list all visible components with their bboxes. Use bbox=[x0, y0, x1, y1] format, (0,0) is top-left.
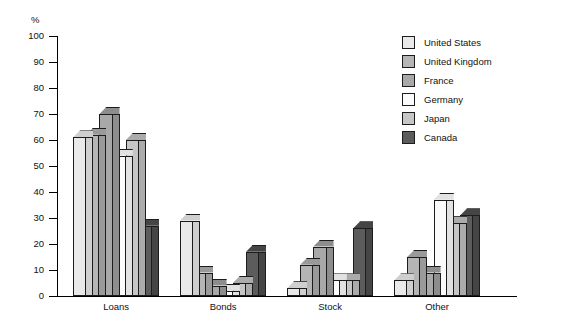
y-axis-tick-label: 50 bbox=[14, 161, 44, 171]
bar-top-face bbox=[246, 245, 266, 252]
y-axis-tick-label: 70 bbox=[14, 109, 44, 119]
bar-top-face bbox=[460, 208, 480, 215]
legend-item[interactable]: United Kingdom bbox=[402, 52, 562, 71]
bar-top-face bbox=[126, 133, 146, 140]
bar-side-face bbox=[366, 228, 373, 296]
legend-swatch bbox=[402, 131, 415, 144]
bar-side-face bbox=[152, 226, 159, 296]
legend-swatch bbox=[402, 36, 415, 49]
bar bbox=[180, 221, 193, 296]
bar-top-face bbox=[394, 273, 414, 280]
y-axis-tick-label: 40 bbox=[14, 187, 44, 197]
bar-side-face bbox=[460, 223, 467, 296]
legend-item-label: Canada bbox=[424, 133, 457, 143]
y-axis-tick bbox=[49, 270, 57, 271]
y-axis-tick bbox=[49, 166, 57, 167]
x-axis-category-label: Other bbox=[425, 301, 449, 312]
bar-side-face bbox=[113, 114, 120, 296]
bar-top-face bbox=[287, 281, 307, 288]
x-axis-category-label: Stock bbox=[318, 301, 342, 312]
bar-top-face bbox=[300, 258, 320, 265]
y-axis-tick bbox=[49, 88, 57, 89]
bar-side-face bbox=[340, 280, 347, 296]
bar-side-face bbox=[407, 280, 414, 296]
y-axis-tick bbox=[49, 244, 57, 245]
legend-swatch bbox=[402, 55, 415, 68]
bar-front-face bbox=[394, 280, 407, 296]
x-axis-category-label: Bonds bbox=[210, 301, 237, 312]
legend-item-label: Germany bbox=[424, 95, 463, 105]
bar-group bbox=[180, 36, 266, 296]
bar-top-face bbox=[99, 107, 119, 114]
legend-item[interactable]: United States bbox=[402, 33, 562, 52]
bar-side-face bbox=[447, 200, 454, 296]
legend-item-label: France bbox=[424, 76, 454, 86]
y-axis-tick-label: 60 bbox=[14, 135, 44, 145]
legend-swatch bbox=[402, 112, 415, 125]
bar-top-face bbox=[353, 221, 373, 228]
x-axis-category-label: Loans bbox=[103, 301, 129, 312]
y-axis-tick bbox=[49, 192, 57, 193]
y-axis-tick bbox=[49, 114, 57, 115]
legend-item[interactable]: Japan bbox=[402, 109, 562, 128]
legend-item[interactable]: France bbox=[402, 71, 562, 90]
bar bbox=[73, 137, 86, 296]
bar bbox=[394, 280, 407, 296]
y-axis-tick bbox=[49, 36, 57, 37]
bar-side-face bbox=[233, 291, 240, 296]
y-axis-tick bbox=[49, 140, 57, 141]
bar-top-face bbox=[233, 276, 253, 283]
bar-side-face bbox=[313, 265, 320, 296]
bar-front-face bbox=[180, 221, 193, 296]
legend-swatch bbox=[402, 93, 415, 106]
y-axis-tick bbox=[49, 296, 57, 297]
bar-side-face bbox=[420, 257, 427, 296]
legend-swatch bbox=[402, 74, 415, 87]
bar-group bbox=[287, 36, 373, 296]
chart-legend: United StatesUnited KingdomFranceGermany… bbox=[402, 33, 562, 147]
y-axis-tick-label: 80 bbox=[14, 83, 44, 93]
y-axis-tick bbox=[49, 62, 57, 63]
bar-top-face bbox=[407, 250, 427, 257]
y-axis-tick-label: 0 bbox=[14, 291, 44, 301]
legend-item[interactable]: Germany bbox=[402, 90, 562, 109]
y-axis-tick-label: 100 bbox=[14, 31, 44, 41]
bar-group bbox=[73, 36, 159, 296]
bar-side-face bbox=[139, 140, 146, 296]
bar-side-face bbox=[206, 273, 213, 296]
bar-side-face bbox=[473, 215, 480, 296]
legend-item[interactable]: Canada bbox=[402, 128, 562, 147]
y-axis-tick-label: 20 bbox=[14, 239, 44, 249]
bar-top-face bbox=[180, 214, 200, 221]
bar-front-face bbox=[73, 137, 86, 296]
y-axis-tick-label: 90 bbox=[14, 57, 44, 67]
x-axis-line bbox=[57, 296, 517, 297]
bar-side-face bbox=[193, 221, 200, 296]
bar-side-face bbox=[259, 252, 266, 296]
legend-item-label: United States bbox=[424, 38, 481, 48]
bar-top-face bbox=[73, 130, 93, 137]
bar-side-face bbox=[220, 286, 227, 296]
y-axis-tick-label: 30 bbox=[14, 213, 44, 223]
bar bbox=[287, 288, 300, 296]
legend-item-label: Japan bbox=[424, 114, 450, 124]
bar-top-face bbox=[313, 240, 333, 247]
bar-chart: % 0102030405060708090100 United StatesUn… bbox=[0, 0, 568, 325]
bar-side-face bbox=[327, 247, 334, 296]
bar-side-face bbox=[300, 288, 307, 296]
bar-side-face bbox=[434, 273, 441, 296]
bar-side-face bbox=[126, 156, 133, 296]
bar-side-face bbox=[99, 135, 106, 296]
bar-top-face bbox=[434, 193, 454, 200]
legend-item-label: United Kingdom bbox=[424, 57, 492, 67]
y-axis-tick-label: 10 bbox=[14, 265, 44, 275]
bar-front-face bbox=[287, 288, 300, 296]
bar-side-face bbox=[86, 137, 93, 296]
bar-side-face bbox=[353, 280, 360, 296]
bar-side-face bbox=[246, 283, 253, 296]
y-axis: 0102030405060708090100 bbox=[0, 0, 57, 325]
y-axis-tick bbox=[49, 218, 57, 219]
